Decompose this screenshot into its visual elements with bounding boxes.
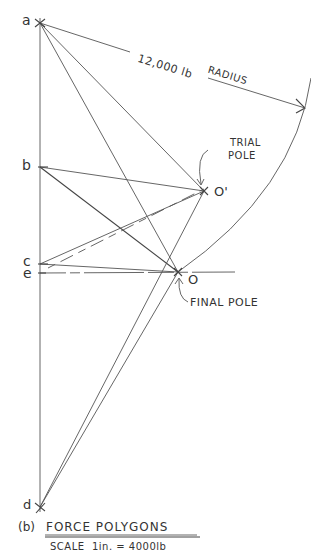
label-e: e [23,265,32,281]
ray-e-oprime [48,189,204,268]
label-oprime: O' [214,184,228,199]
ray-d-o [40,272,178,507]
ray-d-oprime [40,191,204,507]
final-pole-label: FINAL POLE [190,296,258,309]
label-o: O [188,272,198,287]
radius-line-2 [208,78,305,108]
ray-c-o [40,264,178,272]
ray-a-oprime [40,23,204,191]
label-d: d [23,497,31,512]
ray-b-o [40,167,178,272]
radius-arc [178,78,311,272]
caption-prefix: (b) [18,520,35,534]
trial-pole-label-2: POLE [228,150,256,161]
trial-pole-label-1: TRIAL [230,137,261,148]
force-polygon-diagram [0,0,311,560]
ray-c-oprime [40,191,204,264]
caption-scale: SCALE 1in. = 4000lb [50,541,166,552]
final-pole-arrow-icon [179,279,188,302]
label-a: a [22,12,31,28]
closing-line-e-o [40,272,235,273]
label-b: b [22,157,31,173]
caption-title: FORCE POLYGONS [46,520,168,534]
